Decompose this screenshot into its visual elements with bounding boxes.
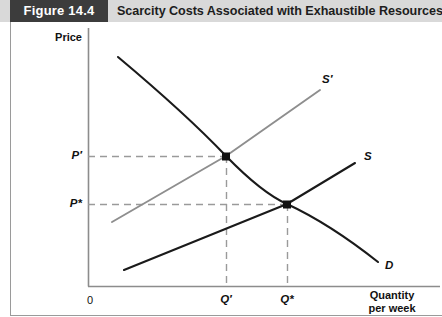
y-axis-tick-p-prime: P′ <box>58 149 82 161</box>
x-axis-tick-q-prime: Q′ <box>214 293 238 305</box>
curve-label-supply: S <box>364 150 372 162</box>
x-axis-title: Quantityper week <box>355 289 429 314</box>
curve-label-demand: D <box>385 259 393 271</box>
figure-container: Figure 14.4 Scarcity Costs Associated wi… <box>0 0 442 317</box>
marker-equilibrium-q-prime <box>222 153 230 161</box>
x-axis-title-line2: per week <box>368 302 415 314</box>
x-axis-tick-origin: 0 <box>82 294 98 306</box>
x-axis-title-line1: Quantity <box>370 289 415 301</box>
x-axis-tick-q-star: Q* <box>275 293 299 305</box>
curve-demand <box>118 57 378 262</box>
y-axis-tick-p-star: P* <box>58 197 82 209</box>
y-axis-title: Price <box>48 31 82 43</box>
curve-supply <box>124 163 355 270</box>
marker-equilibrium-q-star <box>283 201 291 209</box>
curve-label-supply-prime: S′ <box>322 73 332 85</box>
